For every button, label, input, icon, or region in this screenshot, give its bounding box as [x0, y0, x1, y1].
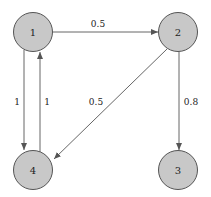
edge-weight-label: 0.5: [89, 97, 104, 107]
edge-4-to-1: 1: [40, 52, 50, 153]
node-4: 4: [14, 151, 53, 190]
node-3: 3: [159, 151, 198, 190]
directed-graph: 0.5 1 1 0.5 0.8 1 2 3: [0, 0, 211, 197]
edge-weight-label: 0.8: [184, 97, 199, 107]
node-2: 2: [159, 13, 198, 52]
edge-1-to-4: 1: [14, 50, 24, 150]
node-1: 1: [14, 13, 53, 52]
node-label: 3: [175, 165, 181, 176]
node-label: 1: [30, 27, 36, 38]
node-label: 4: [30, 165, 36, 176]
edge-weight-label: 0.5: [91, 19, 106, 29]
node-label: 2: [175, 27, 181, 38]
graph-svg: 0.5 1 1 0.5 0.8 1 2 3: [0, 0, 211, 197]
edge-2-to-3: 0.8: [179, 52, 198, 150]
edge-1-to-2: 0.5: [53, 19, 158, 32]
edge-weight-label: 1: [44, 97, 50, 107]
edge-weight-label: 1: [14, 97, 20, 107]
edge-2-to-4: 0.5: [54, 49, 167, 159]
